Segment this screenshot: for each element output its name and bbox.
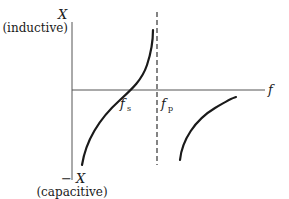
fs-label: f s [119,96,131,113]
reactance-curve-right [180,97,236,160]
fp-subscript: p [168,104,173,113]
reactance-diagram: X (inductive) − X (capacitive) f f s f p [0,0,289,199]
y-axis-bottom-label: − X [61,171,86,186]
fp-symbol: f [160,96,168,111]
fp-label: f p [160,96,173,113]
x-axis-label: f [267,82,275,97]
y-axis-top-label: X [57,7,68,22]
y-axis-bottom-sublabel: (capacitive) [36,185,107,199]
fs-subscript: s [127,104,131,113]
y-axis-top-sublabel: (inductive) [2,21,68,35]
fs-symbol: f [119,96,127,111]
reactance-curve-left [82,30,153,165]
